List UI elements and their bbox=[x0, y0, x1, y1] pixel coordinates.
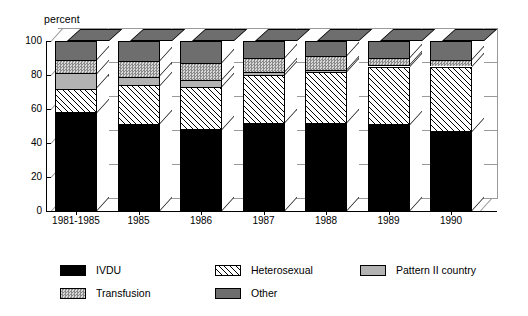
bar-segment-transfusion[interactable] bbox=[305, 56, 347, 70]
bar-segment-side bbox=[97, 99, 109, 211]
bar-1989[interactable] bbox=[368, 41, 410, 211]
legend-label-transfusion: Transfusion bbox=[96, 287, 150, 300]
bar-segment-pattern-ii-country[interactable] bbox=[55, 73, 97, 88]
legend-label-ivdu: IVDU bbox=[96, 264, 121, 277]
bar-segment-side bbox=[472, 118, 484, 211]
solid-black-swatch bbox=[60, 265, 86, 276]
chart-legend: IVDU Heterosexual Pattern II country Tra… bbox=[0, 258, 528, 304]
bar-segment-side bbox=[472, 53, 484, 131]
bar-segment-transfusion[interactable] bbox=[243, 58, 285, 72]
bar-segment-pattern-ii-country[interactable] bbox=[180, 80, 222, 87]
diagonal-hatch-swatch bbox=[215, 265, 241, 276]
light-gray-swatch bbox=[360, 265, 386, 276]
legend-label-other: Other bbox=[251, 287, 277, 300]
bar-segment-heterosexual[interactable] bbox=[368, 67, 410, 125]
bar-segment-heterosexual[interactable] bbox=[430, 67, 472, 132]
bar-segment-transfusion[interactable] bbox=[368, 58, 410, 65]
bar-segment-transfusion[interactable] bbox=[118, 61, 160, 76]
y-tick-100 bbox=[46, 41, 51, 42]
stipple-gray-swatch bbox=[60, 288, 86, 299]
bar-segment-side bbox=[347, 109, 359, 211]
bar-segment-side bbox=[410, 111, 422, 211]
bar-1981-1985[interactable] bbox=[55, 41, 97, 211]
bar-top-face bbox=[317, 29, 372, 41]
bar-segment-other[interactable] bbox=[243, 41, 285, 58]
bar-1985[interactable] bbox=[118, 41, 160, 211]
bar-segment-heterosexual[interactable] bbox=[243, 75, 285, 123]
bar-segment-heterosexual[interactable] bbox=[180, 87, 222, 130]
bar-top-face bbox=[130, 29, 185, 41]
bar-top-face bbox=[67, 29, 122, 41]
bar-segment-side bbox=[160, 111, 172, 211]
bar-1987[interactable] bbox=[243, 41, 285, 211]
dark-gray-swatch bbox=[215, 288, 241, 299]
bar-segment-other[interactable] bbox=[305, 41, 347, 56]
chart-figure: percent 100 80 60 40 20 0 bbox=[0, 0, 528, 316]
bar-segment-other[interactable] bbox=[118, 41, 160, 61]
bar-segment-heterosexual[interactable] bbox=[118, 85, 160, 124]
y-tick-label-40: 40 bbox=[18, 138, 42, 148]
plot-area: percent 100 80 60 40 20 0 bbox=[0, 0, 528, 240]
bar-segment-side bbox=[222, 116, 234, 211]
bar-segment-heterosexual[interactable] bbox=[305, 72, 347, 123]
bar-segment-ivdu[interactable] bbox=[180, 129, 222, 211]
bar-segment-ivdu[interactable] bbox=[305, 123, 347, 211]
bar-segment-ivdu[interactable] bbox=[55, 112, 97, 211]
back-wall-right-edge bbox=[497, 28, 498, 199]
bar-segment-transfusion[interactable] bbox=[180, 63, 222, 80]
bar-segment-ivdu[interactable] bbox=[243, 123, 285, 211]
y-tick-label-60: 60 bbox=[18, 104, 42, 114]
y-tick-60 bbox=[46, 109, 51, 110]
bar-segment-ivdu[interactable] bbox=[368, 124, 410, 211]
depth-line-100 bbox=[51, 28, 63, 42]
y-tick-label-80: 80 bbox=[18, 70, 42, 80]
bar-1986[interactable] bbox=[180, 41, 222, 211]
y-axis-line bbox=[46, 41, 47, 212]
bar-segment-pattern-ii-country[interactable] bbox=[118, 77, 160, 86]
bar-top-face bbox=[442, 29, 497, 41]
bar-segment-pattern-ii-country[interactable] bbox=[368, 65, 410, 67]
legend-label-pattern-ii-country: Pattern II country bbox=[396, 264, 476, 277]
y-tick-label-20: 20 bbox=[18, 172, 42, 182]
bar-top-face bbox=[380, 29, 435, 41]
bar-top-face bbox=[255, 29, 310, 41]
bar-segment-other[interactable] bbox=[430, 41, 472, 60]
bar-segment-other[interactable] bbox=[368, 41, 410, 58]
y-tick-20 bbox=[46, 177, 51, 178]
x-tick-label-1990: 1990 bbox=[411, 215, 491, 226]
y-tick-80 bbox=[46, 75, 51, 76]
bar-top-face bbox=[192, 29, 247, 41]
bar-1990[interactable] bbox=[430, 41, 472, 211]
bar-segment-side bbox=[285, 109, 297, 211]
y-tick-label-100: 100 bbox=[18, 36, 42, 46]
bar-segment-transfusion[interactable] bbox=[55, 60, 97, 74]
bar-segment-pattern-ii-country[interactable] bbox=[305, 70, 347, 72]
bar-segment-other[interactable] bbox=[55, 41, 97, 60]
bar-segment-ivdu[interactable] bbox=[118, 124, 160, 211]
legend-label-heterosexual: Heterosexual bbox=[251, 264, 313, 277]
bar-segment-pattern-ii-country[interactable] bbox=[243, 72, 285, 75]
bar-1988[interactable] bbox=[305, 41, 347, 211]
bar-segment-ivdu[interactable] bbox=[430, 131, 472, 211]
bar-segment-transfusion[interactable] bbox=[430, 60, 472, 67]
x-axis-line bbox=[46, 211, 497, 212]
y-tick-40 bbox=[46, 143, 51, 144]
y-axis-title: percent bbox=[44, 13, 80, 25]
bar-segment-other[interactable] bbox=[180, 41, 222, 63]
bar-segment-heterosexual[interactable] bbox=[55, 89, 97, 113]
